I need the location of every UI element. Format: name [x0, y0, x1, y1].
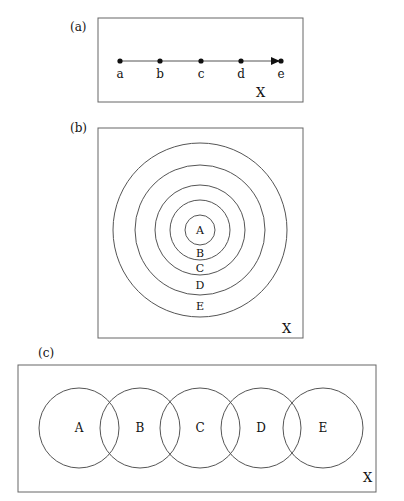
circle-label-B: B: [136, 421, 145, 435]
panel-b: (b) ABCDE X: [70, 121, 303, 338]
ring-label-E: E: [196, 300, 204, 313]
ring-label-A: A: [195, 224, 205, 237]
ring-label-C: C: [196, 262, 204, 275]
point-marker-e: [278, 58, 283, 63]
panel-c: (c) ABCDE X: [18, 346, 376, 492]
panel-b-tag: (b): [70, 121, 87, 135]
ring-label-B: B: [196, 247, 204, 260]
circle-label-A: A: [74, 421, 84, 435]
point-label-a: a: [116, 67, 123, 81]
space-label-x: X: [363, 470, 373, 485]
circle-label-E: E: [319, 421, 328, 435]
point-marker-c: [198, 58, 203, 63]
point-marker-a: [117, 58, 122, 63]
point-label-e: e: [277, 67, 284, 81]
point-label-b: b: [156, 67, 164, 81]
point-label-d: d: [237, 67, 245, 81]
point-label-c: c: [198, 67, 205, 81]
panel-a-tag: (a): [70, 20, 87, 34]
ring-label-D: D: [196, 279, 205, 292]
panel-c-tag: (c): [38, 346, 54, 360]
space-label-x: X: [282, 321, 292, 336]
space-label-x: X: [256, 85, 266, 100]
point-marker-d: [238, 58, 243, 63]
figure: (a) abcde X (b) ABCDE X (c) ABCDE X: [0, 0, 404, 501]
panel-a: (a) abcde X: [70, 18, 303, 102]
point-marker-b: [157, 58, 162, 63]
circle-label-C: C: [195, 421, 204, 435]
circle-label-D: D: [256, 421, 266, 435]
